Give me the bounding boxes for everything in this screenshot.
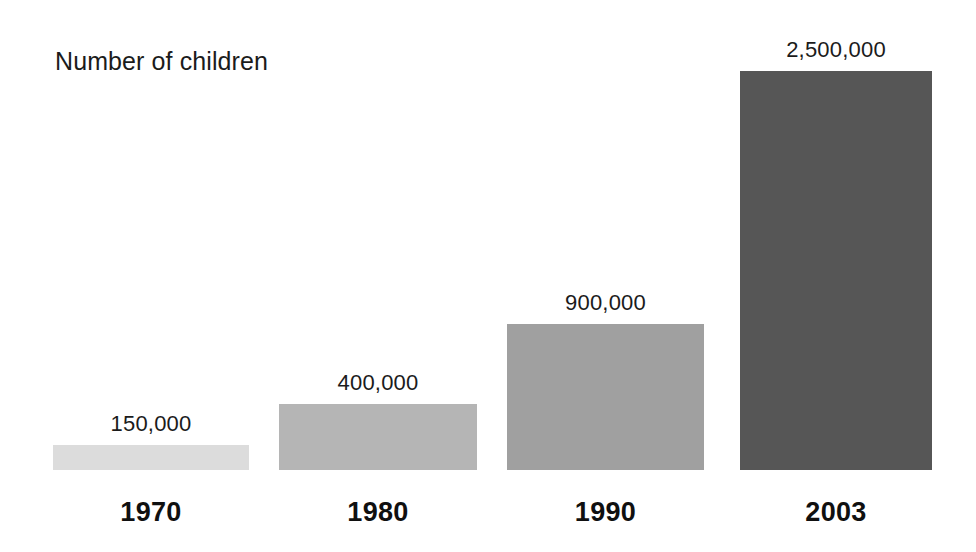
bar-value-label: 400,000 [338, 370, 419, 396]
plot-area: 150,0001970400,0001980900,00019902,500,0… [0, 0, 976, 470]
bar-category-label: 1970 [120, 497, 181, 528]
bar-value-label: 150,000 [111, 411, 192, 437]
bar-group: 150,0001970 [53, 445, 249, 470]
bar [740, 71, 932, 470]
bar-chart-figure: Number of children 150,0001970400,000198… [0, 0, 976, 552]
bar-value-label: 900,000 [565, 290, 646, 316]
bar [53, 445, 249, 470]
bar-group: 2,500,0002003 [740, 71, 932, 470]
bar-group: 400,0001980 [279, 404, 477, 470]
bar-value-label: 2,500,000 [786, 37, 886, 63]
bar-group: 900,0001990 [507, 324, 704, 470]
bar-category-label: 1990 [575, 497, 636, 528]
bar [279, 404, 477, 470]
bar-category-label: 2003 [805, 497, 866, 528]
bar [507, 324, 704, 470]
bar-category-label: 1980 [347, 497, 408, 528]
